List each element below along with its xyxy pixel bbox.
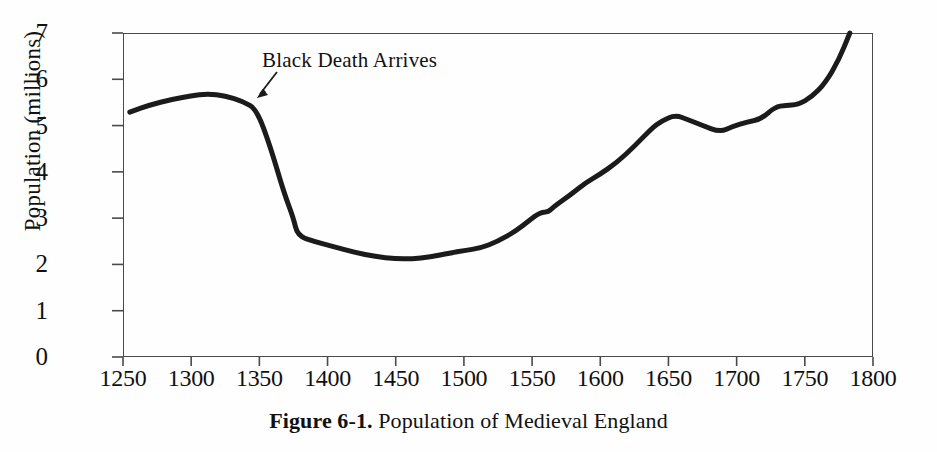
caption-text: Population of Medieval England — [378, 408, 668, 433]
y-tick-label: 7 — [8, 20, 48, 45]
figure-caption: Figure 6-1. Population of Medieval Engla… — [0, 408, 937, 434]
tick-marks — [112, 33, 873, 366]
caption-label: Figure 6-1. — [269, 408, 372, 433]
figure-container: Population (millions) 125013001350140014… — [0, 0, 937, 452]
y-tick-label: 5 — [8, 113, 48, 138]
y-tick-label: 1 — [8, 298, 48, 323]
y-tick-label: 2 — [8, 251, 48, 276]
population-line — [130, 33, 850, 259]
y-tick-label: 4 — [8, 159, 48, 184]
y-tick-label: 6 — [8, 66, 48, 91]
y-tick-label: 0 — [8, 344, 48, 369]
x-tick-label: 1800 — [833, 366, 913, 390]
y-tick-label: 3 — [8, 205, 48, 230]
annotation-black-death: Black Death Arrives — [262, 48, 437, 73]
black-death-arrow — [257, 72, 277, 98]
